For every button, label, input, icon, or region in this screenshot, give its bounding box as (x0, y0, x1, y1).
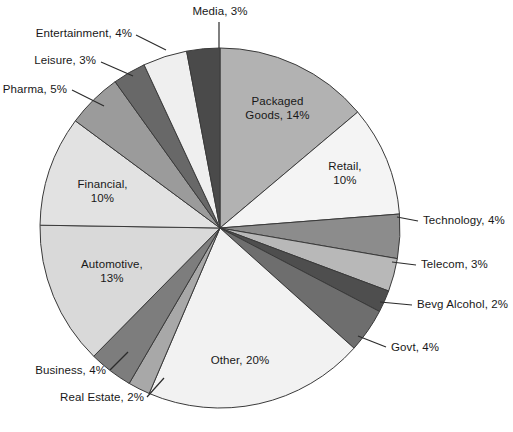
leader-line-govt (358, 336, 386, 347)
slice-label-business: Business, 4% (10, 364, 106, 378)
slice-label-pharma: Pharma, 5% (2, 83, 67, 97)
slice-label-media: Media, 3% (170, 5, 270, 19)
slice-label-packaged-goods: Packaged Goods, 14% (225, 95, 330, 122)
slice-label-financial: Financial, 10% (55, 178, 150, 205)
slice-label-retail: Retail, 10% (310, 160, 380, 187)
slice-label-telecom: Telecom, 3% (421, 258, 511, 272)
slice-label-entertainment: Entertainment, 4% (12, 27, 132, 41)
leader-line-bevg-alcohol (380, 302, 412, 305)
slice-label-real-estate: Real Estate, 2% (32, 391, 144, 405)
slice-label-govt: Govt, 4% (391, 341, 461, 355)
slice-label-technology: Technology, 4% (423, 214, 513, 228)
leader-line-leisure (101, 62, 133, 76)
slice-label-automotive: Automotive, 13% (62, 258, 162, 285)
slice-label-leisure: Leisure, 3% (8, 54, 96, 68)
leader-line-entertainment (136, 35, 166, 50)
slice-label-bevg-alcohol: Bevg Alcohol, 2% (417, 298, 512, 312)
slice-label-other: Other, 20% (190, 354, 290, 368)
